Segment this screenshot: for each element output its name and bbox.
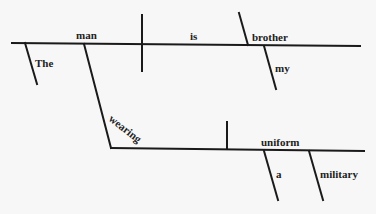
word-the: The: [35, 57, 53, 69]
word-my: my: [275, 62, 290, 74]
word-a: a: [276, 168, 282, 180]
word-military: military: [320, 168, 358, 180]
word-verb: is: [190, 30, 198, 42]
word-uniform: uniform: [261, 136, 300, 148]
participle-baseline: [111, 148, 364, 151]
main-baseline: [12, 43, 360, 46]
word-wearing: wearing: [107, 112, 145, 145]
participle-slant-line: [84, 44, 111, 148]
sentence-diagram: man is brother The my wearing uniform a …: [0, 0, 376, 214]
word-subject: man: [76, 29, 97, 41]
predicate-nominative-divider: [239, 13, 248, 45]
word-predicate-noun: brother: [252, 31, 288, 43]
